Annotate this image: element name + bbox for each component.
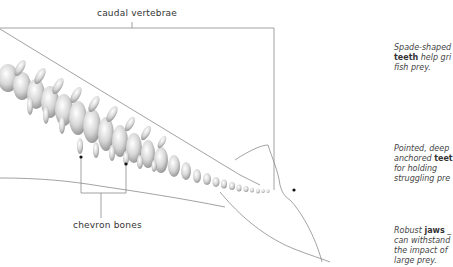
vertebrae-chain [0,58,270,193]
chevron-bones-label: chevron bones [73,220,142,230]
body-outline-lower [0,178,225,207]
note-spade-teeth: Spade-shaped teeth help gri fish prey. [394,43,451,73]
jaw-marker-dot [292,188,295,191]
note-robust-jaws: Robust jaws _ can withstand the impact o… [394,226,451,266]
caudal-vertebrae-label: caudal vertebrae [97,8,177,18]
note-pointed-teeth: Pointed, deep anchored teet for holding … [394,144,453,184]
lower-jaw-outline [220,192,330,262]
chevron-marker-dot [79,155,82,158]
tail-fin-outline [235,145,322,262]
chevron-bones-bracket [81,157,126,218]
chevron-marker-dot [124,162,127,165]
